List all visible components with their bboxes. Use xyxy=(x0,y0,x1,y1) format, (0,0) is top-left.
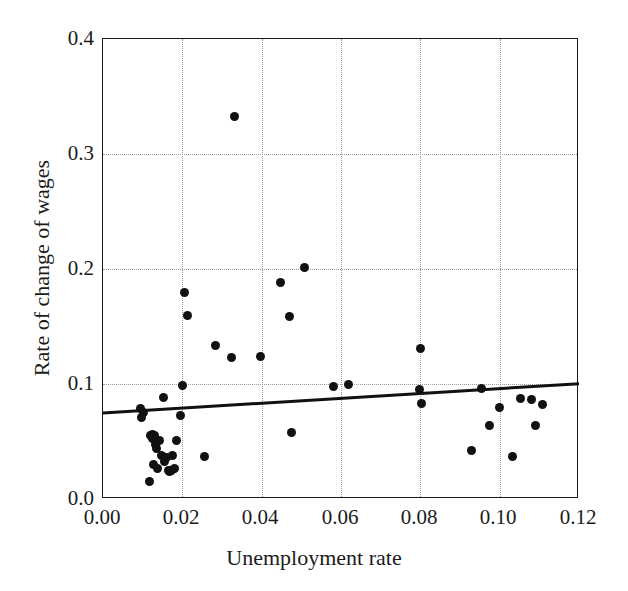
data-point xyxy=(329,382,338,391)
y-tick-text: 0.1 xyxy=(68,371,94,395)
data-point xyxy=(516,394,525,403)
x-tick-text: 0.00 xyxy=(84,505,121,529)
data-point xyxy=(180,288,189,297)
data-point xyxy=(230,112,239,121)
x-tick-label: 0.12 xyxy=(533,505,623,530)
data-point xyxy=(344,380,353,389)
x-tick-text: 0.02 xyxy=(163,505,200,529)
x-tick-text: 0.04 xyxy=(242,505,279,529)
y-tick-text: 0.4 xyxy=(68,26,94,50)
data-point xyxy=(168,451,177,460)
data-point xyxy=(183,311,192,320)
y-tick-text: 0.2 xyxy=(68,256,94,280)
plot-area xyxy=(102,38,578,498)
data-point xyxy=(178,381,187,390)
data-point xyxy=(170,464,179,473)
scatter-chart-figure: 0.4 0.3 0.2 0.1 0.0 0.00 0.02 0.04 0.06 … xyxy=(0,0,628,591)
x-tick-label: 0.06 xyxy=(295,505,385,530)
y-axis-label: Rate of change of wages xyxy=(29,78,55,458)
data-point xyxy=(531,421,540,430)
x-tick-text: 0.08 xyxy=(401,505,438,529)
x-tick-label: 0.00 xyxy=(57,505,147,530)
x-tick-label: 0.10 xyxy=(453,505,543,530)
data-point xyxy=(508,452,517,461)
data-point xyxy=(285,312,294,321)
x-tick-label: 0.02 xyxy=(136,505,226,530)
x-axis-label: Unemployment rate xyxy=(0,545,628,571)
data-point xyxy=(211,341,220,350)
x-tick-label: 0.08 xyxy=(374,505,464,530)
data-point xyxy=(527,395,536,404)
x-tick-text: 0.12 xyxy=(560,505,597,529)
trend-line-segment xyxy=(103,384,579,413)
data-point xyxy=(155,436,164,445)
data-point xyxy=(200,452,209,461)
data-point xyxy=(287,428,296,437)
trend-line xyxy=(103,39,579,499)
y-tick-label: 0.4 xyxy=(0,26,94,51)
x-tick-text: 0.10 xyxy=(480,505,517,529)
x-tick-text: 0.06 xyxy=(322,505,359,529)
x-tick-label: 0.04 xyxy=(215,505,305,530)
data-point xyxy=(256,352,265,361)
y-tick-text: 0.3 xyxy=(68,141,94,165)
data-point xyxy=(159,393,168,402)
